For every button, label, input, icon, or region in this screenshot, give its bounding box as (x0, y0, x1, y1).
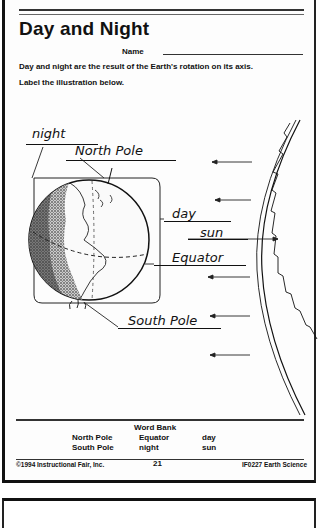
answer-line-day[interactable] (164, 221, 231, 222)
answer-line-north-pole[interactable] (66, 160, 176, 161)
label-day: day (172, 206, 196, 221)
label-equator: Equator (172, 250, 223, 265)
word-bank-word: day (202, 433, 216, 442)
word-bank-word: Equator (139, 433, 169, 442)
word-bank-title: Word Bank (134, 423, 176, 432)
answer-line-sun[interactable] (188, 239, 248, 240)
next-worksheet-page (2, 498, 316, 528)
label-north-pole: North Pole (75, 143, 143, 158)
word-bank-word: South Pole (72, 443, 114, 452)
word-bank-word: sun (202, 443, 216, 452)
word-bank-rule (16, 419, 304, 421)
word-bank-word: night (139, 443, 159, 452)
label-night: night (32, 126, 65, 141)
label-south-pole: South Pole (128, 313, 197, 328)
answer-line-south-pole[interactable] (118, 328, 221, 329)
copyright: ©1994 Instructional Fair, Inc. (16, 461, 104, 468)
earth-icon (29, 168, 152, 309)
sun-icon (257, 120, 317, 415)
product-code: IF0227 Earth Science (242, 461, 307, 468)
page-number: 21 (153, 459, 162, 468)
label-sun: sun (200, 225, 223, 240)
word-bank-word: North Pole (72, 433, 112, 442)
answer-line-equator[interactable] (154, 265, 246, 266)
